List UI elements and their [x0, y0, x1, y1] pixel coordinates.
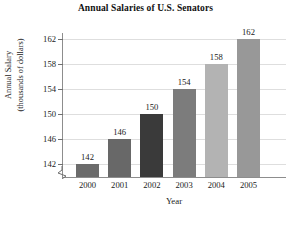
- bar[interactable]: [76, 164, 99, 177]
- y-tick-label: 142: [30, 160, 56, 169]
- y-axis-line: [62, 33, 63, 177]
- x-axis-title: Year: [62, 196, 286, 206]
- y-tick-mark: [58, 89, 63, 90]
- bar[interactable]: [173, 89, 196, 177]
- bar[interactable]: [140, 114, 163, 177]
- y-axis-title: Annual Salary (thousands of dollars): [3, 15, 29, 135]
- y-tick-mark: [58, 39, 63, 40]
- y-tick-label: 150: [30, 110, 56, 119]
- y-tick-label: 146: [30, 135, 56, 144]
- x-axis-line: [62, 177, 286, 178]
- bar-value-label: 162: [229, 28, 269, 37]
- y-tick-mark: [58, 114, 63, 115]
- bar-value-label: 158: [196, 53, 236, 62]
- y-tick-label: 158: [30, 60, 56, 69]
- bar-value-label: 146: [100, 128, 140, 137]
- bar[interactable]: [237, 39, 260, 177]
- bar-value-label: 154: [164, 78, 204, 87]
- bar-value-label: 150: [132, 103, 172, 112]
- y-axis-title-line-1: Annual Salary: [3, 15, 15, 135]
- bar[interactable]: [108, 139, 131, 177]
- y-axis-title-line-2: (thousands of dollars): [15, 15, 27, 135]
- bar-value-label: 142: [68, 153, 108, 162]
- chart-title: Annual Salaries of U.S. Senators: [0, 2, 291, 14]
- y-tick-mark: [58, 164, 63, 165]
- x-tick-label: 2005: [229, 180, 269, 190]
- y-tick-mark: [58, 139, 63, 140]
- y-tick-mark: [58, 64, 63, 65]
- bar[interactable]: [205, 64, 228, 177]
- axis-break-icon: [56, 166, 69, 179]
- y-tick-label: 162: [30, 35, 56, 44]
- bar-chart-figure: Annual Salaries of U.S. Senators Annual …: [0, 0, 291, 230]
- y-tick-label: 154: [30, 85, 56, 94]
